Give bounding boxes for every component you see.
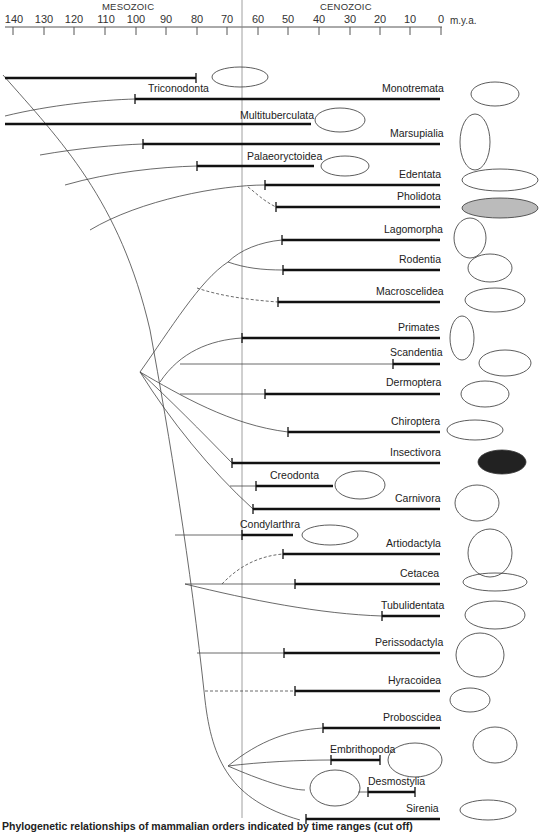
condylarth-illustration <box>302 525 358 545</box>
taxon-label-creodonta: Creodonta <box>270 470 319 481</box>
taxon-label-condylarthra: Condylarthra <box>240 519 300 530</box>
taxon-label-pholidota: Pholidota <box>397 191 441 202</box>
tree-shrew-illustration <box>479 350 531 376</box>
taxon-label-macroscelidea: Macroscelidea <box>376 286 444 297</box>
palaeoryctid-illustration <box>321 156 369 176</box>
tree-branches <box>3 75 393 820</box>
taxon-label-chiroptera: Chiroptera <box>391 416 440 427</box>
whale-illustration <box>463 573 527 591</box>
tiger-illustration <box>455 485 499 521</box>
multituberculate-illustration <box>315 108 365 132</box>
taxon-label-edentata: Edentata <box>399 169 441 180</box>
taxon-label-rodentia: Rodentia <box>399 254 441 265</box>
anteater-illustration <box>462 169 538 191</box>
hedgehog-illustration <box>478 450 526 474</box>
taxon-label-hyracoidea: Hyracoidea <box>388 675 441 686</box>
taxon-label-scandentia: Scandentia <box>390 347 443 358</box>
taxon-label-triconodonta: Triconodonta <box>148 83 209 94</box>
time-axis <box>5 27 442 35</box>
range-bars <box>5 78 440 819</box>
elephant-shrew-illustration <box>465 288 525 312</box>
figure-caption: Phylogenetic relationships of mammalian … <box>2 821 555 832</box>
taxon-label-embrithopoda: Embrithopoda <box>330 744 395 755</box>
horse-illustration <box>456 633 504 677</box>
bat-illustration <box>447 420 503 440</box>
taxon-label-artiodactyla: Artiodactyla <box>386 538 441 549</box>
taxon-label-palaeoryctoidea: Palaeoryctoidea <box>247 151 322 162</box>
taxon-label-marsupialia: Marsupialia <box>390 128 444 139</box>
taxon-label-dermoptera: Dermoptera <box>386 377 441 388</box>
platypus-illustration <box>471 82 519 106</box>
camel-illustration <box>468 529 512 577</box>
hare-illustration <box>454 218 486 258</box>
taxon-label-sirenia: Sirenia <box>406 803 439 814</box>
taxon-label-carnivora: Carnivora <box>395 493 441 504</box>
taxon-label-primates: Primates <box>398 322 439 333</box>
elephant-illustration <box>473 727 517 763</box>
taxon-label-desmostylia: Desmostylia <box>368 776 425 787</box>
squirrel-illustration <box>468 254 512 282</box>
colugo-illustration <box>461 381 509 407</box>
creodont-illustration <box>335 471 385 499</box>
taxon-label-insectivora: Insectivora <box>390 447 441 458</box>
manatee-illustration <box>460 800 516 820</box>
tree-svg <box>0 0 555 832</box>
taxon-label-tubulidentata: Tubulidentata <box>381 600 444 611</box>
taxon-label-monotremata: Monotremata <box>382 83 444 94</box>
hyrax-illustration <box>450 688 490 712</box>
gorilla-illustration <box>450 316 474 360</box>
phylogeny-diagram: MESOZOIC CENOZOIC 140 130 120 110 100 90… <box>0 0 555 832</box>
animal-illustrations <box>212 67 538 820</box>
desmostylian-illustration <box>310 770 360 806</box>
pangolin-illustration <box>462 198 538 218</box>
taxon-label-multituberculata: Multituberculata <box>240 110 314 121</box>
taxon-label-lagomorpha: Lagomorpha <box>384 224 443 235</box>
taxon-label-perissodactyla: Perissodactyla <box>375 637 443 648</box>
taxon-label-cetacea: Cetacea <box>400 568 439 579</box>
triconodont-illustration <box>212 67 268 87</box>
kangaroo-illustration <box>460 114 490 170</box>
taxon-label-proboscidea: Proboscidea <box>383 712 441 723</box>
aardvark-illustration <box>465 601 525 629</box>
arsinoitherium-illustration <box>388 743 442 777</box>
